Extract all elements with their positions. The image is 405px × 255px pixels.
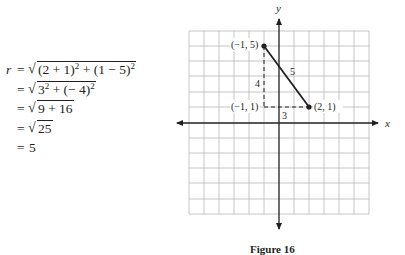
point-marker	[261, 43, 266, 48]
point-marker	[306, 104, 311, 109]
horizontal-leg-label: 3	[282, 110, 287, 121]
point-label-1: (−1, 5)	[231, 39, 258, 51]
figure-caption: Figure 16	[250, 243, 295, 255]
vertical-leg-label: 4	[255, 78, 260, 89]
point-label-2: (2, 1)	[314, 101, 336, 113]
hypotenuse-label: 5	[290, 66, 295, 77]
axes	[177, 19, 378, 229]
x-axis-label: x	[384, 117, 390, 129]
y-axis-label: y	[275, 2, 281, 14]
point-label-3: (−1, 1)	[231, 101, 258, 113]
hypotenuse	[264, 46, 309, 107]
